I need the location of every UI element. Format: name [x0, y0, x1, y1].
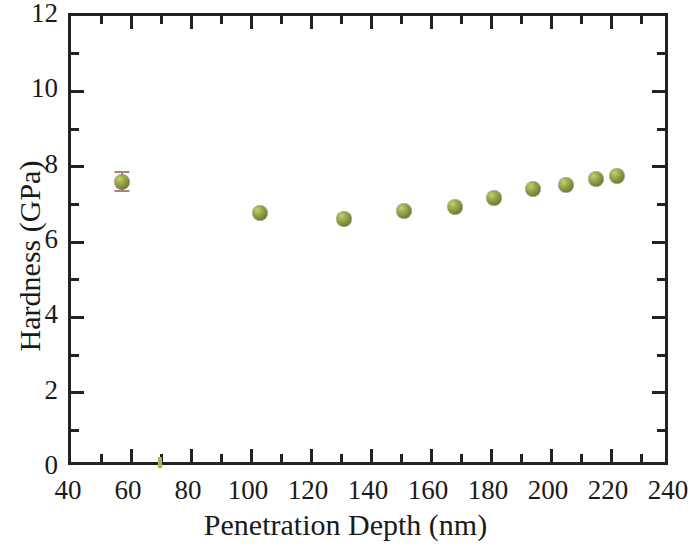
y-tick-minor-7: [71, 203, 79, 206]
x-tick-minor-110: [280, 454, 283, 462]
plot-area: [71, 16, 665, 462]
x-tick-label-160: 160: [408, 477, 449, 504]
y-tick-right-major-10: [652, 90, 665, 93]
y-tick-major-4: [71, 316, 84, 319]
x-tick-top-major-180: [490, 16, 493, 29]
x-tick-top-minor-50: [100, 16, 103, 24]
data-point: [526, 181, 541, 196]
x-tick-top-minor-170: [460, 16, 463, 24]
y-tick-minor-9: [71, 128, 79, 131]
y-tick-major-6: [71, 241, 84, 244]
x-tick-label-60: 60: [115, 477, 142, 504]
x-tick-label-240: 240: [648, 477, 689, 504]
x-tick-top-minor-90: [220, 16, 223, 24]
x-tick-top-minor-130: [340, 16, 343, 24]
x-tick-label-100: 100: [228, 477, 269, 504]
y-tick-label-0: 0: [0, 452, 58, 479]
y-tick-major-10: [71, 90, 84, 93]
x-tick-top-major-100: [250, 16, 253, 29]
x-tick-minor-90: [220, 454, 223, 462]
y-tick-major-8: [71, 165, 84, 168]
x-tick-top-minor-230: [640, 16, 643, 24]
y-tick-right-major-8: [652, 165, 665, 168]
x-tick-label-140: 140: [348, 477, 389, 504]
data-point: [115, 174, 130, 189]
y-tick-right-major-2: [652, 391, 665, 394]
data-point: [337, 211, 352, 226]
x-tick-top-minor-190: [520, 16, 523, 24]
y-tick-right-minor-3: [657, 354, 665, 357]
x-axis-title: Penetration Depth (nm): [0, 508, 691, 542]
data-point: [610, 169, 625, 184]
y-tick-right-minor-7: [657, 203, 665, 206]
axis-artifact: [158, 457, 162, 468]
y-tick-right-minor-1: [657, 429, 665, 432]
y-tick-right-minor-11: [657, 52, 665, 55]
x-tick-top-major-60: [130, 16, 133, 29]
x-tick-major-60: [130, 449, 133, 462]
x-tick-top-major-120: [310, 16, 313, 29]
y-tick-minor-5: [71, 278, 79, 281]
data-point: [559, 177, 574, 192]
x-tick-label-40: 40: [55, 477, 82, 504]
x-tick-minor-190: [520, 454, 523, 462]
data-point: [397, 203, 412, 218]
y-tick-label-12: 12: [0, 0, 58, 27]
error-cap-1-lower: [115, 190, 130, 192]
y-tick-major-2: [71, 391, 84, 394]
data-point: [487, 190, 502, 205]
x-tick-major-140: [370, 449, 373, 462]
x-tick-minor-170: [460, 454, 463, 462]
x-tick-top-major-140: [370, 16, 373, 29]
data-point: [589, 171, 604, 186]
x-tick-major-160: [430, 449, 433, 462]
x-tick-label-200: 200: [528, 477, 569, 504]
x-tick-minor-130: [340, 454, 343, 462]
x-tick-top-minor-150: [400, 16, 403, 24]
y-tick-right-minor-9: [657, 128, 665, 131]
x-tick-label-220: 220: [588, 477, 629, 504]
hardness-vs-depth-chart: 406080100120140160180200220240024681012 …: [0, 0, 691, 554]
y-tick-right-minor-5: [657, 278, 665, 281]
x-tick-top-major-160: [430, 16, 433, 29]
y-tick-right-major-4: [652, 316, 665, 319]
x-tick-top-minor-110: [280, 16, 283, 24]
y-tick-right-major-6: [652, 241, 665, 244]
y-tick-minor-11: [71, 52, 79, 55]
data-point: [253, 205, 268, 220]
y-tick-minor-3: [71, 354, 79, 357]
x-tick-top-minor-70: [160, 16, 163, 24]
x-tick-major-220: [610, 449, 613, 462]
x-tick-major-120: [310, 449, 313, 462]
y-axis-title: Hardness (GPa): [13, 86, 47, 426]
x-tick-top-major-220: [610, 16, 613, 29]
x-tick-label-120: 120: [288, 477, 329, 504]
x-tick-top-major-80: [190, 16, 193, 29]
x-tick-minor-50: [100, 454, 103, 462]
x-tick-major-100: [250, 449, 253, 462]
x-tick-minor-210: [580, 454, 583, 462]
x-tick-major-180: [490, 449, 493, 462]
x-tick-major-200: [550, 449, 553, 462]
x-tick-major-80: [190, 449, 193, 462]
y-tick-minor-1: [71, 429, 79, 432]
error-cap-1-upper: [115, 171, 130, 173]
x-tick-minor-150: [400, 454, 403, 462]
data-point: [448, 199, 463, 214]
x-tick-top-minor-210: [580, 16, 583, 24]
plot-frame: [68, 13, 668, 465]
x-tick-label-80: 80: [175, 477, 202, 504]
x-tick-minor-230: [640, 454, 643, 462]
x-tick-top-major-200: [550, 16, 553, 29]
x-tick-label-180: 180: [468, 477, 509, 504]
